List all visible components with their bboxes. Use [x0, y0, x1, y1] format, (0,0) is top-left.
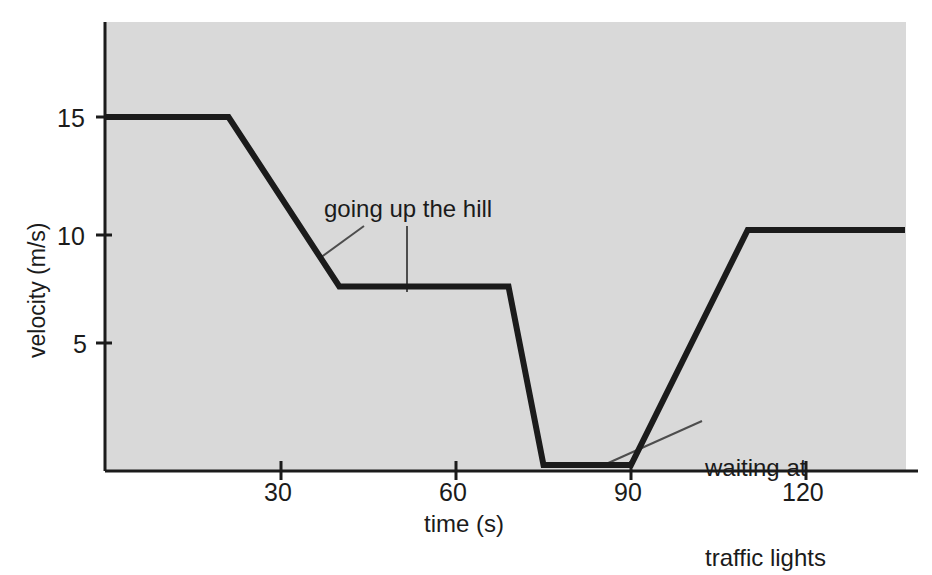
y-tick-label-15: 15 — [57, 104, 85, 133]
annotation-waiting-line-1: waiting at — [705, 453, 826, 483]
x-tick-label-90: 90 — [614, 478, 642, 507]
annotation-leaders — [320, 226, 702, 464]
leader-waiting-traffic-lights — [606, 421, 702, 464]
x-tick-label-30: 30 — [264, 478, 292, 507]
annotation-going-up-the-hill: going up the hill — [324, 194, 492, 224]
y-axis-label: velocity (m/s) — [24, 223, 51, 358]
leader-going-up-hill-diagonal — [320, 226, 364, 258]
annotation-waiting-line-2: traffic lights — [705, 543, 826, 573]
annotation-waiting-at-traffic-lights: waiting at traffic lights — [705, 393, 826, 575]
x-tick-label-60: 60 — [439, 478, 467, 507]
y-tick-label-10: 10 — [57, 222, 85, 251]
y-tick-label-5: 5 — [73, 330, 87, 359]
x-axis-label: time (s) — [424, 510, 504, 538]
